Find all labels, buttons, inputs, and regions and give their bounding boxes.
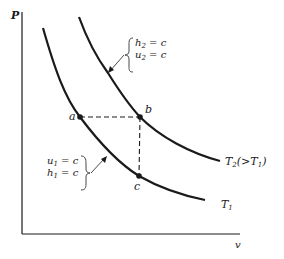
isotherm-t1-label: T1 xyxy=(221,199,233,212)
point-c-label: c xyxy=(134,181,140,192)
lower-annotation: u1 = c h1 = c xyxy=(47,156,78,180)
annotation-u2-eq: u2 = c xyxy=(135,50,166,62)
point-c-marker xyxy=(136,173,142,179)
point-a-marker xyxy=(77,114,83,120)
isotherm-t2-label: T2(>T1) xyxy=(225,156,266,169)
h2-rhs: = c xyxy=(146,37,166,48)
point-b-marker xyxy=(137,114,143,120)
point-b-label: b xyxy=(145,104,152,115)
annotation-h1-eq: h1 = c xyxy=(47,168,78,180)
lower-brace xyxy=(81,156,90,190)
x-axis-label: v xyxy=(235,240,241,250)
lower-arrow-head-icon xyxy=(101,156,107,163)
h1-rhs: = c xyxy=(58,167,78,178)
t1-label-sub: 1 xyxy=(228,204,232,212)
t2-label-suffix-end: ) xyxy=(262,155,266,168)
point-a-label: a xyxy=(69,111,76,122)
upper-annotation: h2 = c u2 = c xyxy=(135,38,166,62)
lower-arrow-line xyxy=(91,159,104,173)
y-axis-label: P xyxy=(11,10,19,21)
u2-rhs: = c xyxy=(146,49,166,60)
u1-rhs: = c xyxy=(58,155,78,166)
t2-label-suffix: (>T xyxy=(237,155,258,168)
dashed-line-b-c xyxy=(139,117,140,176)
upper-brace xyxy=(125,38,133,72)
